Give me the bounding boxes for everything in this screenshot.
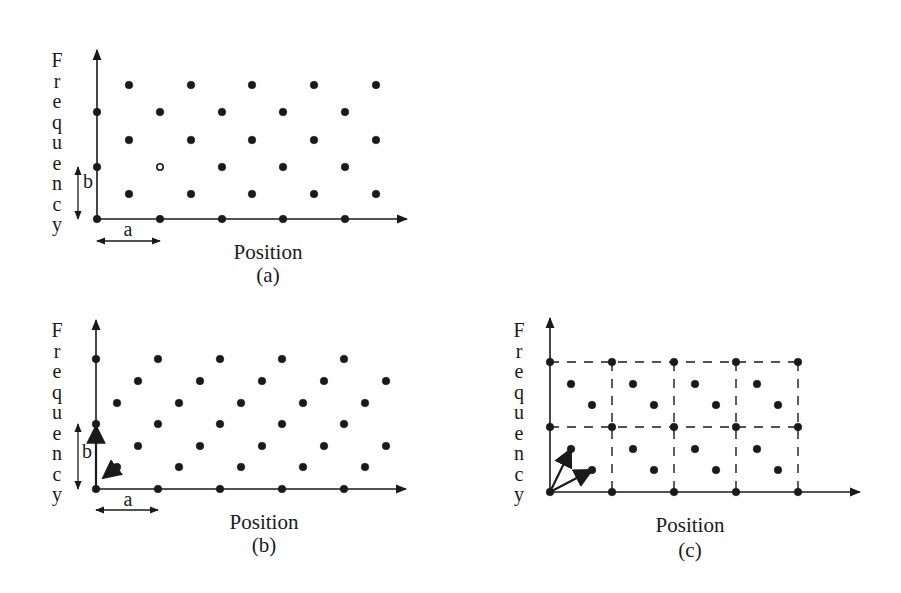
lattice-point xyxy=(196,442,204,450)
lattice-points xyxy=(92,355,390,493)
lattice-point xyxy=(732,423,740,431)
lattice-point xyxy=(567,380,575,388)
lattice-point xyxy=(712,401,720,409)
lattice-point xyxy=(216,355,224,363)
lattice-point xyxy=(361,399,369,407)
y-axis-label-letter: y xyxy=(52,483,62,506)
dimension-b-label: b xyxy=(83,170,93,192)
lattice-point xyxy=(278,485,286,493)
dimension-arrows: ab xyxy=(78,167,160,241)
lattice-point xyxy=(310,190,318,198)
lattice-point xyxy=(670,423,678,431)
lattice-point xyxy=(154,485,162,493)
y-axis-label-letter: r xyxy=(54,70,61,92)
lattice-point xyxy=(248,136,256,144)
lattice-point xyxy=(546,358,554,366)
lattice-point xyxy=(608,423,616,431)
lattice-point xyxy=(279,163,287,171)
lattice-point xyxy=(196,377,204,385)
lattice-point xyxy=(341,163,349,171)
lattice-point xyxy=(92,355,100,363)
lattice-point xyxy=(361,463,369,471)
lattice-point xyxy=(320,377,328,385)
lattice-point xyxy=(340,420,348,428)
lattice-point xyxy=(794,358,802,366)
lattice-point xyxy=(279,108,287,116)
lattice-point xyxy=(732,358,740,366)
lattice-point xyxy=(670,488,678,496)
lattice-point xyxy=(650,466,658,474)
y-axis-label-letter: e xyxy=(53,152,62,174)
axes xyxy=(96,320,406,489)
lattice-point xyxy=(691,380,699,388)
y-axis-label-letter: u xyxy=(514,401,524,423)
lattice-point xyxy=(650,401,658,409)
y-axis-label-letter: r xyxy=(54,340,61,362)
lattice-point xyxy=(93,108,101,116)
lattice-figure: ab Frequency Position (a) ab Frequency P… xyxy=(0,0,901,593)
lattice-point xyxy=(248,81,256,89)
panel-a: ab Frequency Position (a) xyxy=(51,49,407,287)
y-axis-label-letter: r xyxy=(516,340,523,362)
y-axis-label-letter: e xyxy=(53,90,62,112)
y-axis-label-letter: c xyxy=(53,193,62,215)
lattice-point xyxy=(187,136,195,144)
y-axis-label-letter: y xyxy=(514,483,524,506)
y-axis-label-letter: y xyxy=(52,213,62,236)
lattice-point xyxy=(341,215,349,223)
lattice-point xyxy=(125,190,133,198)
lattice-point xyxy=(753,445,761,453)
panel-caption: (a) xyxy=(256,263,279,287)
lattice-point xyxy=(341,108,349,116)
x-axis-label: Position xyxy=(656,513,725,537)
lattice-point xyxy=(216,485,224,493)
y-axis-label-letter: F xyxy=(51,319,62,341)
y-axis-label-letter: F xyxy=(51,49,62,71)
lattice-point xyxy=(248,190,256,198)
lattice-point xyxy=(278,420,286,428)
lattice-point xyxy=(134,442,142,450)
panel-c: Frequency Position (c) xyxy=(513,318,860,562)
lattice-point xyxy=(340,485,348,493)
lattice-point xyxy=(691,445,699,453)
y-axis-label: Frequency xyxy=(51,319,62,506)
y-axis-label-letter: e xyxy=(515,360,524,382)
lattice-point xyxy=(774,401,782,409)
lattice-point xyxy=(157,164,163,170)
lattice-point xyxy=(732,488,740,496)
lattice-point xyxy=(237,463,245,471)
y-axis-label-letter: u xyxy=(52,131,62,153)
lattice-point xyxy=(372,136,380,144)
lattice-point xyxy=(310,136,318,144)
dimension-b-label: b xyxy=(82,440,92,462)
axes xyxy=(550,318,860,492)
lattice-point xyxy=(794,488,802,496)
lattice-point xyxy=(175,463,183,471)
lattice-point xyxy=(154,355,162,363)
y-axis-label-letter: c xyxy=(515,463,524,485)
lattice-point xyxy=(794,423,802,431)
lattice-point xyxy=(629,445,637,453)
basis-vector-arrow xyxy=(103,467,117,478)
lattice-point xyxy=(156,215,164,223)
lattice-point xyxy=(299,399,307,407)
y-axis-label-letter: e xyxy=(53,422,62,444)
lattice-point xyxy=(258,377,266,385)
lattice-point xyxy=(125,81,133,89)
lattice-point xyxy=(218,163,226,171)
basis-vectors xyxy=(96,426,117,489)
y-axis-label-letter: e xyxy=(53,360,62,382)
y-axis-label-letter: u xyxy=(52,401,62,423)
y-axis-label-letter: n xyxy=(514,442,524,464)
y-axis-label-letter: c xyxy=(53,463,62,485)
lattice-point xyxy=(218,215,226,223)
lattice-point xyxy=(156,108,164,116)
x-axis-label: Position xyxy=(230,510,299,534)
lattice-point xyxy=(134,377,142,385)
y-axis-label-letter: n xyxy=(52,442,62,464)
lattice-point xyxy=(154,420,162,428)
lattice-point xyxy=(279,215,287,223)
lattice-point xyxy=(310,81,318,89)
lattice-point xyxy=(320,442,328,450)
lattice-point xyxy=(340,355,348,363)
